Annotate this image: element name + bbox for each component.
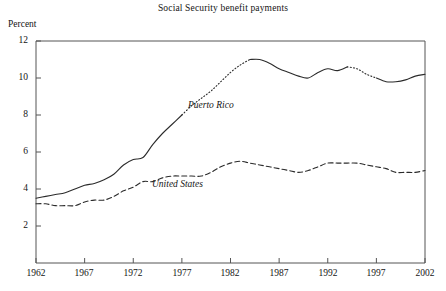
series-path-puerto-rico [376,74,425,82]
series-path-puerto-rico [347,67,376,78]
series-lines [36,59,425,206]
series-path-puerto-rico [250,59,347,78]
plot-area [0,0,446,291]
series-path-puerto-rico [182,60,250,116]
series-path-puerto-rico [36,115,182,198]
axis-frame [36,41,425,263]
x-axis-ticks [36,258,425,263]
chart-container: Social Security benefit payments Percent… [0,0,446,291]
